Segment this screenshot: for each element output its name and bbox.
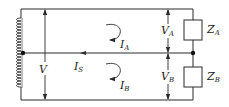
loop-current-b-label: IB [119,79,130,93]
source-current-label: IS [73,60,83,74]
wires [21,9,193,100]
centre-tap-dot [21,51,25,55]
loop-current-b-icon [106,63,120,79]
circuit-diagram: V IS IA IB VA VB ZA ZB [0,0,229,107]
bottom-wire [21,87,193,100]
impedance-za-box [184,20,202,40]
top-wire [21,9,193,20]
source-voltage-label: V [39,63,48,76]
impedance-a-label: ZA [206,23,220,37]
loop-current-a-icon [106,24,120,40]
loop-current-a-label: IA [119,38,129,52]
impedance-zb-box [184,67,202,87]
impedance-b-label: ZB [206,70,220,84]
is-arrow-icon [80,51,86,55]
load-junction-dot [191,51,195,55]
